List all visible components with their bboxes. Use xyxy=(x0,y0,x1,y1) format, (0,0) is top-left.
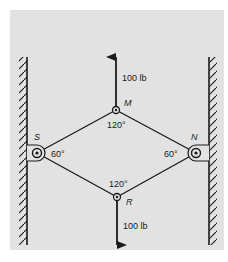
force-label-down: 100 lb xyxy=(123,221,148,231)
angle-label-r: 120° xyxy=(109,179,128,189)
right-wall xyxy=(209,57,217,245)
pin-s xyxy=(33,149,42,158)
joint-label-m: M xyxy=(124,98,132,108)
pin-n xyxy=(192,149,201,158)
angle-label-m: 120° xyxy=(107,120,126,130)
pin-r xyxy=(114,194,121,201)
joint-label-n: N xyxy=(191,132,198,142)
rhombus-linkage-diagram: 100 lb 100 lb M R S N 120° 120° 60° 60° xyxy=(0,0,228,262)
joint-label-s: S xyxy=(34,132,40,142)
pin-m xyxy=(113,107,120,114)
angle-label-s: 60° xyxy=(51,149,65,159)
force-label-up: 100 lb xyxy=(122,73,147,83)
joint-label-r: R xyxy=(126,197,133,207)
angle-label-n: 60° xyxy=(164,149,178,159)
left-wall xyxy=(19,57,27,245)
